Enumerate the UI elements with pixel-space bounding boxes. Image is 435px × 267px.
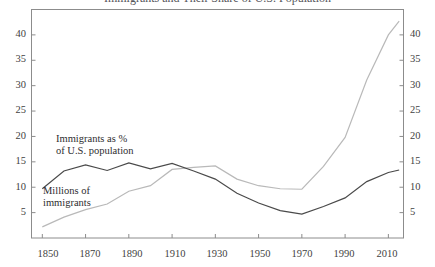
annotation-millions-line1: Millions of [43, 185, 91, 197]
y-left-tick-25: 25 [2, 104, 26, 115]
x-tick-2010: 2010 [367, 248, 407, 259]
y-right-tick-35: 35 [410, 53, 434, 64]
y-right-tick-20: 20 [410, 130, 434, 141]
y-left-tick-40: 40 [2, 28, 26, 39]
y-axis-right-ticks [400, 35, 404, 213]
x-tick-1970: 1970 [282, 248, 322, 259]
annotation-millions-series: Millions of immigrants [43, 185, 91, 209]
x-tick-1910: 1910 [155, 248, 195, 259]
x-tick-1890: 1890 [112, 248, 152, 259]
x-tick-1930: 1930 [197, 248, 237, 259]
y-right-tick-10: 10 [410, 181, 434, 192]
y-right-tick-15: 15 [410, 155, 434, 166]
y-left-tick-15: 15 [2, 155, 26, 166]
y-axis-left-ticks [32, 35, 36, 213]
annotation-percent-series: Immigrants as % of U.S. population [56, 133, 134, 157]
y-left-tick-30: 30 [2, 79, 26, 90]
y-right-tick-40: 40 [410, 28, 434, 39]
annotation-percent-line2: of U.S. population [56, 145, 134, 157]
x-tick-1850: 1850 [28, 248, 68, 259]
annotation-percent-line1: Immigrants as % [56, 133, 134, 145]
chart-figure: Immigrants and Their Share of U.S. Popul… [0, 0, 435, 267]
y-left-tick-5: 5 [2, 206, 26, 217]
y-right-tick-5: 5 [410, 206, 434, 217]
y-left-tick-10: 10 [2, 181, 26, 192]
x-tick-1870: 1870 [70, 248, 110, 259]
series-line-millions-of-immigrants [42, 21, 399, 227]
x-tick-1950: 1950 [240, 248, 280, 259]
y-left-tick-35: 35 [2, 53, 26, 64]
y-left-tick-20: 20 [2, 130, 26, 141]
y-right-tick-30: 30 [410, 79, 434, 90]
x-axis-ticks [42, 234, 388, 238]
y-right-tick-25: 25 [410, 104, 434, 115]
annotation-millions-line2: immigrants [43, 197, 91, 209]
x-tick-1990: 1990 [324, 248, 364, 259]
